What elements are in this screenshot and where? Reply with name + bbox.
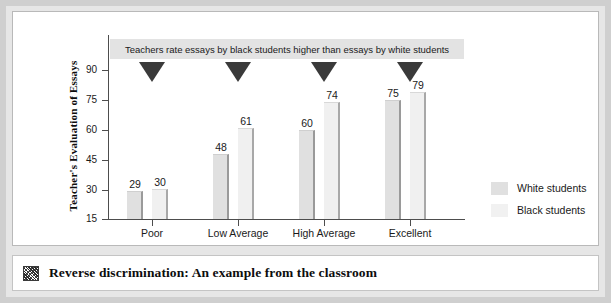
legend-swatch-black-students (491, 204, 508, 217)
legend-label-white-students: White students (517, 182, 586, 194)
chart-title-text: Teachers rate essays by black students h… (125, 44, 449, 55)
bar-black-students-poor (152, 189, 168, 219)
y-tick-label-75: 75 (75, 94, 97, 105)
y-tick-90 (102, 70, 108, 71)
y-axis-line (108, 35, 109, 220)
y-tick-label-15: 15 (75, 213, 97, 224)
x-tick-label-poor: Poor (112, 227, 192, 239)
y-tick-label-60: 60 (75, 124, 97, 135)
x-tick-label-low-average: Low Average (198, 227, 278, 239)
bar-white-students-excellent (385, 100, 401, 219)
y-tick-label-45: 45 (75, 154, 97, 165)
legend-item-white-students: White students (491, 177, 586, 199)
bar-white-students-high-average (299, 130, 315, 219)
x-tick-poor (152, 220, 153, 226)
bar-label-white-students-poor: 29 (122, 178, 148, 190)
x-tick-label-high-average: High Average (284, 227, 364, 239)
x-tick-excellent (410, 220, 411, 226)
figure-root: Teachers rate essays by black students h… (0, 0, 611, 303)
bar-label-white-students-excellent: 75 (380, 87, 406, 99)
bar-black-students-high-average (324, 102, 340, 219)
bar-label-black-students-low-average: 61 (233, 115, 259, 127)
y-tick-label-90: 90 (75, 64, 97, 75)
bar-white-students-poor (127, 191, 143, 219)
legend-swatch-white-students (491, 182, 508, 195)
bar-label-white-students-low-average: 48 (208, 141, 234, 153)
bar-label-white-students-high-average: 60 (294, 117, 320, 129)
caption-text: Reverse discrimination: An example from … (49, 265, 377, 281)
x-tick-low-average (238, 220, 239, 226)
x-axis-title: Quality of the Essays (108, 242, 465, 246)
bar-label-black-students-poor: 30 (147, 176, 173, 188)
textured-square-icon (23, 266, 39, 281)
y-tick-45 (102, 160, 108, 161)
bar-black-students-excellent (410, 92, 426, 219)
down-triangle-icon-poor (139, 62, 165, 82)
legend-item-black-students: Black students (491, 199, 586, 221)
y-tick-75 (102, 100, 108, 101)
caption-panel: Reverse discrimination: An example from … (12, 255, 599, 291)
chart-panel: Teachers rate essays by black students h… (12, 11, 599, 246)
chart-legend: White students Black students (491, 177, 586, 221)
y-tick-60 (102, 130, 108, 131)
x-axis-line (108, 219, 465, 220)
y-tick-30 (102, 190, 108, 191)
x-tick-label-excellent: Excellent (370, 227, 450, 239)
y-tick-label-30: 30 (75, 184, 97, 195)
x-tick-high-average (324, 220, 325, 226)
legend-label-black-students: Black students (517, 204, 585, 216)
chart-title-banner: Teachers rate essays by black students h… (110, 39, 464, 59)
bar-white-students-low-average (213, 154, 229, 219)
bar-black-students-low-average (238, 128, 254, 219)
down-triangle-icon-high-average (311, 62, 337, 82)
down-triangle-icon-low-average (225, 62, 251, 82)
bar-label-black-students-high-average: 74 (319, 89, 345, 101)
bar-label-black-students-excellent: 79 (405, 79, 431, 91)
